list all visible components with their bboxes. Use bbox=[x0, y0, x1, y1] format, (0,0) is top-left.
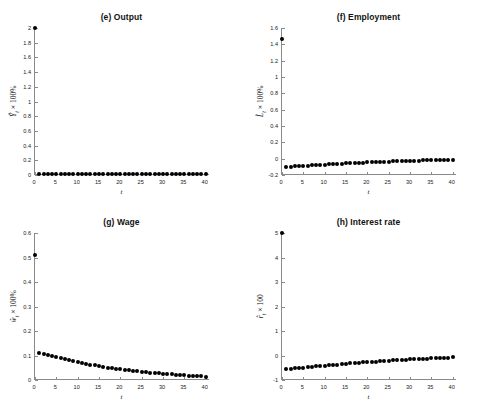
y-tick bbox=[35, 57, 38, 58]
subplot-title-h: (h) Interest rate bbox=[281, 217, 456, 227]
y-tick bbox=[282, 77, 285, 78]
x-tick-label: 15 bbox=[342, 179, 348, 185]
y-axis-label-g: ŵt × 100% bbox=[9, 232, 20, 379]
data-point bbox=[204, 375, 208, 379]
x-tick bbox=[99, 377, 100, 380]
x-tick-label: 5 bbox=[301, 179, 304, 185]
x-tick-label: 0 bbox=[32, 179, 35, 185]
x-tick-label: 30 bbox=[159, 384, 165, 390]
data-point bbox=[451, 355, 455, 359]
subplot-e: (e) Output051015202530354000.20.40.60.81… bbox=[4, 12, 215, 201]
x-tick bbox=[389, 172, 390, 175]
x-tick bbox=[410, 377, 411, 380]
x-tick bbox=[303, 377, 304, 380]
x-tick-label: 20 bbox=[116, 384, 122, 390]
x-tick-label: 10 bbox=[321, 384, 327, 390]
x-tick-label: 0 bbox=[279, 384, 282, 390]
data-point bbox=[280, 231, 284, 235]
y-tick bbox=[35, 282, 38, 283]
y-tick bbox=[282, 93, 285, 94]
x-tick-label: 0 bbox=[32, 384, 35, 390]
x-tick-label: 40 bbox=[449, 179, 455, 185]
y-tick bbox=[282, 28, 285, 29]
y-tick bbox=[282, 356, 285, 357]
y-tick bbox=[282, 258, 285, 259]
y-tick bbox=[282, 331, 285, 332]
y-tick bbox=[35, 331, 38, 332]
x-axis-label-f: t bbox=[281, 188, 456, 196]
x-tick-label: 20 bbox=[363, 179, 369, 185]
y-tick bbox=[35, 233, 38, 234]
x-tick-label: 20 bbox=[363, 384, 369, 390]
x-tick bbox=[56, 377, 57, 380]
plot-area-g bbox=[34, 233, 209, 380]
y-tick bbox=[282, 307, 285, 308]
y-tick bbox=[35, 160, 38, 161]
x-tick-label: 25 bbox=[385, 384, 391, 390]
x-tick bbox=[142, 377, 143, 380]
y-tick bbox=[35, 258, 38, 259]
y-tick bbox=[35, 380, 38, 381]
x-tick-label: 0 bbox=[279, 179, 282, 185]
y-tick bbox=[282, 175, 285, 176]
plot-area-e bbox=[34, 28, 209, 175]
x-tick-label: 25 bbox=[138, 384, 144, 390]
subplot-g: (g) Wage051015202530354000.10.20.30.40.5… bbox=[4, 217, 215, 406]
plot-area-f bbox=[281, 28, 456, 175]
x-tick bbox=[325, 377, 326, 380]
subplot-f: (f) Employment0510152025303540-0.200.20.… bbox=[251, 12, 462, 201]
y-tick bbox=[282, 380, 285, 381]
x-tick bbox=[78, 377, 79, 380]
y-tick bbox=[282, 282, 285, 283]
data-point bbox=[280, 37, 284, 41]
x-tick bbox=[367, 377, 368, 380]
subplot-title-g: (g) Wage bbox=[34, 217, 209, 227]
y-axis-suffix: × 100% bbox=[9, 290, 18, 315]
y-tick bbox=[35, 307, 38, 308]
x-tick-label: 35 bbox=[180, 179, 186, 185]
x-axis-label-e: t bbox=[34, 188, 209, 196]
x-tick bbox=[431, 377, 432, 380]
x-tick-label: 15 bbox=[342, 384, 348, 390]
x-tick-label: 40 bbox=[202, 384, 208, 390]
y-tick bbox=[35, 131, 38, 132]
x-tick bbox=[346, 172, 347, 175]
x-tick bbox=[367, 172, 368, 175]
y-tick bbox=[282, 44, 285, 45]
plot-area-h bbox=[281, 233, 456, 380]
x-axis-label-h: t bbox=[281, 393, 456, 401]
data-point bbox=[451, 158, 455, 162]
y-tick bbox=[282, 159, 285, 160]
x-tick bbox=[184, 377, 185, 380]
y-tick bbox=[35, 146, 38, 147]
x-tick bbox=[389, 377, 390, 380]
x-tick-label: 35 bbox=[180, 384, 186, 390]
y-tick bbox=[35, 116, 38, 117]
y-axis-suffix: × 100% bbox=[9, 85, 18, 110]
x-tick bbox=[453, 377, 454, 380]
x-tick-label: 5 bbox=[54, 179, 57, 185]
x-tick-label: 25 bbox=[385, 179, 391, 185]
y-tick bbox=[35, 87, 38, 88]
x-tick-label: 20 bbox=[116, 179, 122, 185]
x-tick-label: 30 bbox=[159, 179, 165, 185]
y-axis-label-f: L̂t × 100% bbox=[256, 27, 267, 174]
data-point bbox=[33, 26, 37, 30]
x-tick-label: 10 bbox=[74, 384, 80, 390]
figure-impulse-responses: (e) Output051015202530354000.20.40.60.81… bbox=[0, 0, 483, 413]
x-tick bbox=[410, 172, 411, 175]
x-tick bbox=[163, 377, 164, 380]
y-tick bbox=[282, 126, 285, 127]
x-tick bbox=[120, 377, 121, 380]
x-tick-label: 40 bbox=[202, 179, 208, 185]
x-tick bbox=[325, 172, 326, 175]
y-axis-suffix: × 100% bbox=[256, 85, 265, 110]
x-tick-label: 15 bbox=[95, 384, 101, 390]
x-axis-label-g: t bbox=[34, 393, 209, 401]
x-tick-label: 30 bbox=[406, 179, 412, 185]
x-tick-label: 25 bbox=[138, 179, 144, 185]
x-tick-label: 10 bbox=[74, 179, 80, 185]
x-tick bbox=[431, 172, 432, 175]
y-axis-variable: L̂ bbox=[256, 112, 265, 116]
y-tick bbox=[35, 356, 38, 357]
